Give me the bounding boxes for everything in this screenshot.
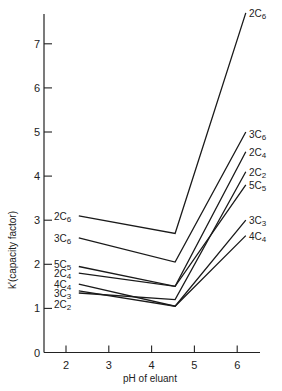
y-tick-label: 7 <box>34 38 40 50</box>
y-tick-label: 2 <box>34 258 40 270</box>
series-line-2c2 <box>79 172 246 300</box>
x-axis-title: pH of eluant <box>123 373 177 384</box>
series-label-3c6: 3C6 <box>54 233 72 246</box>
y-tick-label: 1 <box>34 302 40 314</box>
series-label-2c4: 2C4 <box>249 147 267 160</box>
x-tick-label: 3 <box>106 359 112 371</box>
line-chart: 0123456723456 2C63C65C52C44C43C32C22C63C… <box>0 0 282 391</box>
series-label-4c4: 4C4 <box>249 231 267 244</box>
y-tick-label: 4 <box>34 170 40 182</box>
x-tick-label: 4 <box>149 359 155 371</box>
series-line-4c4 <box>79 236 246 307</box>
series-line-3c6 <box>79 132 246 262</box>
y-axis-title: k'(capacity factor) <box>7 211 18 289</box>
series-label-2c2: 2C2 <box>249 167 267 180</box>
y-tick-label: 5 <box>34 126 40 138</box>
axes: 0123456723456 <box>34 14 260 371</box>
series-label-2c6: 2C6 <box>249 8 267 21</box>
x-tick-label: 5 <box>191 359 197 371</box>
y-tick-label: 3 <box>34 214 40 226</box>
series-label-3c3: 3C3 <box>249 215 267 228</box>
series-label-5c5: 5C5 <box>249 180 267 193</box>
y-tick-label: 0 <box>34 347 40 359</box>
series-line-2c4 <box>79 152 246 287</box>
series-label-2c6: 2C6 <box>54 211 72 224</box>
series-line-3c3 <box>79 220 246 306</box>
x-tick-label: 2 <box>63 359 69 371</box>
series-label-3c6: 3C6 <box>249 129 267 142</box>
series-labels: 2C63C65C52C44C43C32C22C63C62C42C25C53C34… <box>54 8 267 312</box>
y-tick-label: 6 <box>34 82 40 94</box>
x-tick-label: 6 <box>234 359 240 371</box>
series-lines <box>79 13 246 306</box>
